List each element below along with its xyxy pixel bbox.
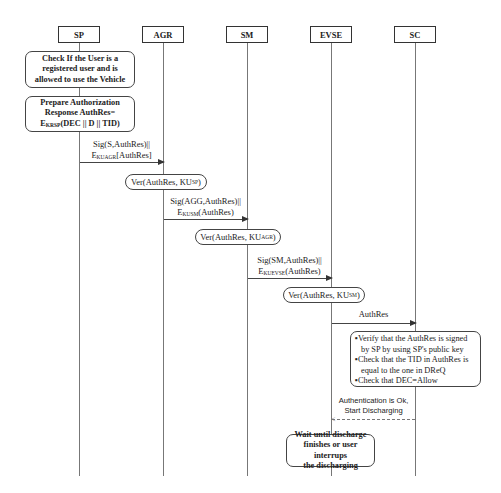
msg-agr-sm-label: Sig(AGG,AuthRes)|| EKUSM(AuthRes) xyxy=(164,196,247,219)
checklist-text: Verify that the AuthRes is signed by SP … xyxy=(358,334,467,354)
text-line: Response AuthRes= xyxy=(40,108,120,119)
actor-label: AGR xyxy=(154,30,173,40)
lifeline-sc xyxy=(415,43,416,476)
actor-sc: SC xyxy=(394,26,436,43)
evse-wait-box: Wait until discharge finishes or user in… xyxy=(286,434,375,467)
enc-payload: (AuthRes) xyxy=(198,207,233,217)
text-line: EKUSM(AuthRes) xyxy=(164,207,247,220)
ver-key: AGR xyxy=(261,234,273,240)
arrow-head-icon xyxy=(410,320,417,326)
ver-close: ) xyxy=(273,232,276,242)
text-line: allowed to use the Vehicle xyxy=(35,75,125,86)
text-line: registered user and is xyxy=(35,64,125,75)
actor-label: SC xyxy=(410,30,421,40)
actor-agr: AGR xyxy=(142,26,184,43)
ver-kusm-box: Ver(AuthRes, KUSM) xyxy=(283,287,365,303)
msg-arrow-sp-agr xyxy=(80,162,163,163)
checklist-item: ▪Check that DEC=Allow xyxy=(354,376,477,387)
actor-label: EVSE xyxy=(320,30,342,40)
ver-close: ) xyxy=(198,177,201,187)
sp-prepare-authres-box: Prepare Authorization Response AuthRes= … xyxy=(25,96,135,132)
text-line: EKRSP(DEC || D || TID) xyxy=(40,119,120,131)
actor-sm: SM xyxy=(226,26,268,43)
checklist-text: Check that the TID in AuthRes is equal t… xyxy=(358,355,468,375)
sp-check-user-box: Check If the User is a registered user a… xyxy=(25,51,135,88)
enc-key: KUSM xyxy=(182,211,198,217)
ver-text: Ver(AuthRes, KU xyxy=(288,290,349,300)
arrow-head-icon xyxy=(158,159,165,165)
msg-arrow-sm-evse xyxy=(248,278,331,279)
text-line: Wait until discharge xyxy=(287,430,374,441)
ver-text: Ver(AuthRes, KU xyxy=(200,232,261,242)
text-line: Start Discharging xyxy=(332,406,415,416)
actor-label: SP xyxy=(74,30,84,40)
ver-key: SM xyxy=(349,292,357,298)
checklist-text: Check that DEC=Allow xyxy=(358,376,438,385)
enc-payload: [AuthRes] xyxy=(116,150,151,160)
enc-key: KUAGR xyxy=(97,154,117,160)
text-line: EKUEVSE(AuthRes) xyxy=(248,266,331,279)
text-line: Sig(SM,AuthRes)|| xyxy=(248,255,331,266)
ver-text: Ver(AuthRes, KU xyxy=(131,177,192,187)
msg-sp-agr-label: Sig(S,AuthRes)|| EKUAGR[AuthRes] xyxy=(80,139,163,162)
ver-kuagr-box: Ver(AuthRes, KUAGR) xyxy=(195,229,281,245)
enc-payload: (DEC || D || TID) xyxy=(60,119,119,128)
reply-sc-evse-label: Authentication is Ok, Start Discharging xyxy=(332,396,415,416)
msg-arrow-evse-sc xyxy=(332,323,415,324)
arrow-head-icon xyxy=(242,216,249,222)
msg-arrow-agr-sm xyxy=(164,219,247,220)
enc-payload: (AuthRes) xyxy=(285,266,320,276)
text-line: finishes or user interrups xyxy=(287,440,374,461)
ver-close: ) xyxy=(357,290,360,300)
actor-evse: EVSE xyxy=(310,26,352,43)
msg-sm-evse-label: Sig(SM,AuthRes)|| EKUEVSE(AuthRes) xyxy=(248,255,331,278)
lifeline-agr xyxy=(163,43,164,476)
arrow-head-icon xyxy=(326,275,333,281)
ver-kusp-box: Ver(AuthRes, KUSP) xyxy=(125,174,207,190)
sc-verification-checklist: ▪Verify that the AuthRes is signed by SP… xyxy=(350,331,481,387)
text-line: Check If the User is a xyxy=(35,54,125,65)
enc-key: KUEVSE xyxy=(264,270,286,276)
enc-key: KRSP xyxy=(46,122,61,128)
reply-arrow-dashed: < xyxy=(332,419,415,420)
text-line: the discharging xyxy=(287,461,374,472)
actor-sp: SP xyxy=(58,26,100,43)
text-line: Authentication is Ok, xyxy=(332,396,415,406)
msg-evse-sc-label: AuthRes xyxy=(332,309,415,320)
open-arrow-head-icon: < xyxy=(331,416,336,424)
actor-label: SM xyxy=(241,30,254,40)
text-line: Prepare Authorization xyxy=(40,98,120,109)
text-line: Sig(S,AuthRes)|| xyxy=(80,139,163,150)
checklist-item: ▪Verify that the AuthRes is signed by SP… xyxy=(354,334,477,355)
checklist-item: ▪Check that the TID in AuthRes is equal … xyxy=(354,355,477,376)
text-line: Sig(AGG,AuthRes)|| xyxy=(164,196,247,207)
text-line: EKUAGR[AuthRes] xyxy=(80,150,163,163)
text-line: AuthRes xyxy=(332,309,415,320)
